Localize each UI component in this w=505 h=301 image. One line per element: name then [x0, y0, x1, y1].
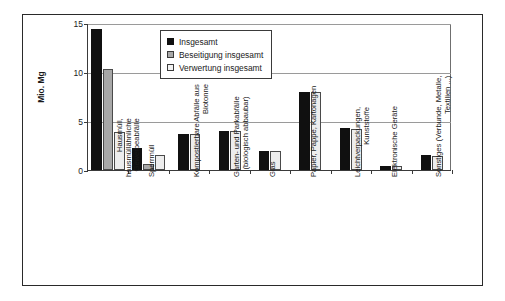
x-label-line: Sperrmüll [148, 145, 157, 178]
x-tick-mark [169, 170, 170, 174]
x-axis-category-label: Kompostierbare Abfälle ausBiotonne [193, 84, 210, 177]
bar [91, 29, 102, 170]
x-tick-mark [331, 170, 332, 174]
legend-swatch-insgesamt [167, 38, 174, 45]
legend-item: Verwertung insgesamt [167, 61, 263, 74]
chart-figure: Mio. Mg 051015 Hausmüll,hausmüllähnliche… [22, 14, 483, 286]
bar [421, 155, 432, 170]
bar [178, 134, 189, 170]
x-axis-category-label: Elektronische Geräte [391, 106, 400, 177]
x-label-line: Biotonne [201, 84, 210, 177]
y-axis-label: Mio. Mg [36, 71, 46, 103]
x-tick-mark [371, 170, 372, 174]
y-tick-label: 10 [74, 68, 83, 78]
x-label-line: Gewerbeabfälle [133, 118, 142, 177]
x-axis-category-label: Sperrmüll [148, 145, 157, 178]
x-axis-category-label: Leichtverpackungen,Kunststoffe [354, 107, 371, 177]
bar [219, 131, 230, 170]
y-tick-label: 5 [78, 117, 83, 127]
x-tick-mark [412, 170, 413, 174]
y-tick-label: 0 [78, 166, 83, 176]
legend-label: Verwertung insgesamt [179, 63, 262, 73]
chart-legend: Insgesamt Beseitigung insgesamt Verwertu… [160, 30, 272, 79]
x-axis-category-label: Glas [269, 161, 278, 177]
y-tick-mark [84, 171, 88, 172]
x-label-line: Kunststoffe [363, 107, 372, 177]
bar [103, 69, 114, 170]
legend-label: Insgesamt [179, 37, 218, 47]
legend-swatch-verwertung [167, 64, 174, 71]
legend-item: Beseitigung insgesamt [167, 48, 263, 61]
x-axis-category-label: Hausmüll,hausmüllähnlicheGewerbeabfälle [116, 118, 142, 177]
x-label-line: Papier, Pappe, Kartonagen [310, 86, 319, 177]
x-label-line: (biologisch abbaubar) [242, 96, 251, 177]
x-axis-category-label: Papier, Pappe, Kartonagen [310, 86, 319, 177]
x-label-line: Glas [269, 161, 278, 177]
x-label-line: Elektronische Geräte [391, 106, 400, 177]
bar [340, 128, 351, 170]
y-tick-label: 15 [74, 19, 83, 29]
legend-label: Beseitigung insgesamt [179, 50, 263, 60]
x-label-line: Textilien ...) [444, 76, 453, 177]
legend-item: Insgesamt [167, 35, 263, 48]
x-tick-mark [290, 170, 291, 174]
x-axis-category-label: Garten- und Parkabfälle(biologisch abbau… [233, 96, 250, 177]
x-axis-category-label: Sonstiges (Verbunde, Metalle,Textilien .… [435, 76, 452, 177]
legend-swatch-beseitigung [167, 51, 174, 58]
x-label-line: Kompostierbare Abfälle aus [193, 84, 202, 177]
